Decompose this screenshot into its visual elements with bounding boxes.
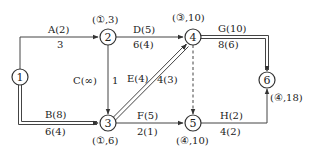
edge-d: D(5) 6(4) [116, 24, 183, 50]
node-6: 6 (④,18) [259, 72, 303, 103]
network-diagram: A(2) 3 B(8) 6(4) C(∞) 1 D(5) 6(4) E(4) 4… [0, 0, 319, 146]
edge-e: E(4) 4(3) [113, 44, 189, 120]
node-5: 5 (④,10) [176, 115, 209, 146]
edge-c: C(∞) 1 [73, 45, 118, 114]
edge-a-top-label: A(2) [47, 24, 69, 35]
edge-f: F(5) 2(1) [116, 110, 183, 137]
edge-g: G(10) 8(6) [201, 23, 269, 71]
node-5-annotation: (④,10) [176, 135, 209, 146]
edge-b: B(8) 6(4) [19, 85, 99, 137]
edge-f-bottom-label: 2(1) [137, 126, 158, 137]
node-1: 1 [12, 69, 28, 85]
edge-h-top-label: H(2) [220, 110, 243, 121]
node-4-annotation: (③,10) [172, 12, 205, 23]
edge-h-bottom-label: 4(2) [220, 126, 241, 137]
edge-e-top-label: E(4) [127, 73, 149, 84]
edge-a: A(2) 3 [20, 24, 98, 69]
edge-g-top-label: G(10) [218, 23, 247, 34]
node-2-label: 2 [105, 31, 112, 44]
node-3: 3 (①,6) [92, 115, 118, 146]
edge-c-top-label: C(∞) [73, 75, 97, 86]
edge-f-top-label: F(5) [137, 110, 158, 121]
edge-d-top-label: D(5) [133, 24, 155, 35]
node-6-annotation: (④,18) [270, 92, 303, 103]
edge-g-bottom-label: 8(6) [218, 39, 239, 50]
node-3-label: 3 [105, 117, 112, 130]
node-4-label: 4 [190, 31, 197, 44]
edge-e-bottom-label: 4(3) [157, 74, 178, 85]
node-4: 4 (③,10) [172, 12, 205, 45]
node-2-annotation: (①,3) [92, 14, 118, 25]
edge-h: H(2) 4(2) [201, 89, 267, 137]
edge-a-bottom-label: 3 [57, 39, 63, 50]
node-3-annotation: (①,6) [92, 135, 118, 146]
edge-b-top-label: B(8) [45, 109, 67, 120]
node-2: 2 (①,3) [92, 14, 118, 45]
edge-b-bottom-label: 6(4) [45, 126, 66, 137]
edge-d-bottom-label: 6(4) [133, 39, 154, 50]
node-6-label: 6 [264, 74, 271, 87]
node-1-label: 1 [17, 71, 24, 84]
edge-c-bottom-label: 1 [112, 75, 118, 86]
node-5-label: 5 [190, 117, 197, 130]
